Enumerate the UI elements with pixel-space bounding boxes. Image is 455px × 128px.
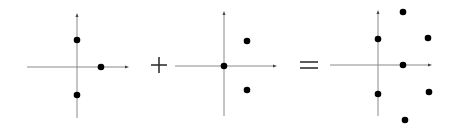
data-point [426, 89, 433, 96]
y-axis-arrow-icon [223, 11, 226, 15]
data-point [74, 92, 81, 99]
data-point [74, 37, 81, 44]
data-point [402, 117, 409, 124]
minkowski-sum-diagram [0, 0, 455, 128]
data-point [244, 87, 251, 94]
equals-operator [300, 62, 318, 68]
data-point [400, 9, 407, 16]
panel-sum [330, 9, 432, 124]
y-axis-arrow-icon [76, 13, 79, 17]
data-point [425, 35, 432, 42]
x-axis-arrow-icon [125, 66, 129, 69]
x-axis-arrow-icon [273, 65, 277, 68]
data-point [221, 63, 228, 70]
y-axis-arrow-icon [377, 10, 380, 14]
data-point [400, 62, 407, 69]
data-point [375, 36, 382, 43]
plus-operator [151, 57, 167, 73]
panel-b [175, 11, 277, 116]
x-axis-arrow-icon [428, 64, 432, 67]
data-point [98, 64, 105, 71]
data-point [244, 38, 251, 45]
panel-a [27, 13, 129, 118]
data-point [375, 91, 382, 98]
